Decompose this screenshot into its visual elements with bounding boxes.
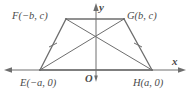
y-axis-label: y (99, 2, 104, 13)
origin-label: O (85, 74, 93, 85)
point-label-G: G(b, c) (127, 11, 157, 22)
point-label-F: F(−b, c) (12, 11, 48, 22)
vertex-E (39, 69, 41, 71)
vertex-F (65, 18, 67, 20)
vertex-G (123, 18, 125, 20)
diagonal-FH (66, 19, 152, 70)
vertex-H (151, 69, 153, 71)
x-axis-label: x (172, 56, 178, 67)
geometry-figure: F(−b, c) G(b, c) E(−a, 0) H(a, 0) O x y (0, 0, 190, 97)
point-label-E: E(−a, 0) (20, 78, 56, 89)
point-label-H: H(a, 0) (133, 78, 163, 89)
